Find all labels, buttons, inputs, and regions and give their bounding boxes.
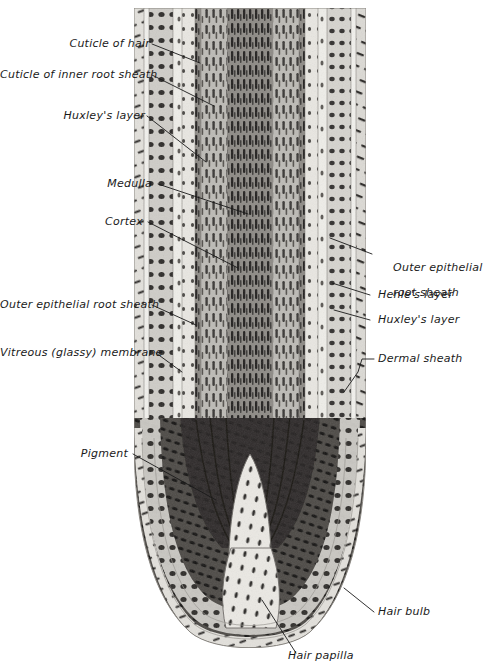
label-hair-bulb: Hair bulb — [378, 606, 458, 619]
label-hair-papilla: Hair papilla — [288, 650, 398, 663]
hair-follicle-micrograph — [134, 8, 366, 648]
label-outer-epithelial-root-sheath-left: Outer epithelial root sheath — [0, 299, 148, 312]
label-vitreous-glassy-membrane: Vitreous (glassy) membrane — [0, 347, 152, 360]
label-huxleys-layer-right: Huxley's layer — [378, 314, 460, 327]
label-cuticle-of-inner-root-sheath: Cuticle of inner root sheath — [0, 69, 150, 82]
label-henles-layer: Henle's layer — [378, 289, 460, 302]
label-pigment: Pigment — [0, 448, 128, 461]
label-cuticle-of-hair: Cuticle of hair — [0, 38, 150, 51]
label-dermal-sheath: Dermal sheath — [378, 353, 460, 366]
label-huxleys-layer-left: Huxley's layer — [0, 110, 145, 123]
label-line-1: Outer epithelial — [393, 261, 483, 274]
label-outer-epithelial-root-sheath-right: Outer epithelial root sheath — [378, 249, 460, 312]
label-medulla: Medulla — [0, 178, 152, 191]
label-cortex: Cortex — [0, 216, 143, 229]
